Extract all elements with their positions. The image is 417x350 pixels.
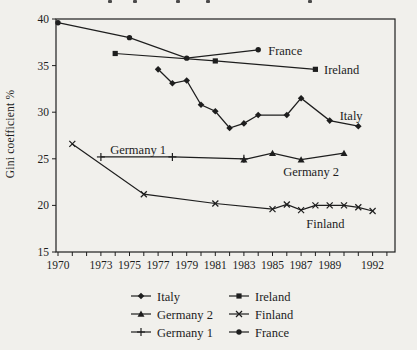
x-tick-label: 1987 — [290, 259, 313, 271]
series-germany-2: Germany 2 — [240, 150, 347, 179]
y-tick-label: 40 — [38, 13, 50, 25]
scanned-figure-page: 1970197319751977197919811983198519871989… — [0, 0, 417, 350]
legend-label: Italy — [157, 290, 181, 304]
legend-item-france: France — [229, 326, 289, 340]
y-tick-label: 15 — [38, 246, 50, 258]
series-line-france — [58, 23, 258, 58]
legend-label: Finland — [255, 308, 294, 322]
x-tick-label: 1983 — [232, 259, 255, 271]
legend-item-italy: Italy — [131, 290, 181, 304]
data-point-marker — [127, 35, 132, 40]
x-tick-label: 1977 — [147, 259, 170, 271]
data-point-marker — [341, 150, 348, 156]
legend-item-finland: Finland — [229, 308, 294, 322]
data-point-marker — [269, 150, 276, 156]
y-tick-label: 25 — [38, 153, 50, 165]
series-label-ireland: Ireland — [324, 63, 360, 77]
y-tick-label: 35 — [38, 60, 50, 72]
y-tick-label: 30 — [38, 106, 50, 118]
legend-item-germany-1: Germany 1 — [131, 326, 213, 340]
data-point-marker — [236, 329, 241, 334]
data-point-marker — [55, 20, 60, 25]
y-axis-title: Gini coefficient % — [4, 64, 16, 204]
data-point-marker — [236, 293, 241, 298]
data-point-marker — [313, 67, 318, 72]
data-point-marker — [213, 58, 218, 63]
x-tick-label: 1975 — [118, 259, 141, 271]
series-label-italy: Italy — [340, 109, 364, 123]
x-tick-label: 1979 — [175, 259, 198, 271]
data-point-marker — [198, 101, 205, 108]
data-point-marker — [256, 47, 261, 52]
legend-item-ireland: Ireland — [229, 290, 291, 304]
data-point-marker — [355, 123, 362, 130]
legend-label: Germany 1 — [157, 326, 213, 340]
data-point-marker — [138, 293, 145, 300]
legend-item-germany-2: Germany 2 — [131, 308, 213, 322]
x-tick-label: 1970 — [47, 259, 70, 271]
x-tick-label: 1973 — [89, 259, 112, 271]
data-point-marker — [113, 51, 118, 56]
data-point-marker — [255, 112, 262, 119]
x-tick-label: 1989 — [318, 259, 341, 271]
series-germany-1: Germany 1 — [97, 143, 248, 162]
series-label-france: France — [268, 44, 302, 58]
data-point-marker — [241, 120, 248, 127]
x-tick-label: 1981 — [204, 259, 227, 271]
series-label-germany-2: Germany 2 — [283, 165, 339, 179]
x-tick-label: 1992 — [361, 259, 384, 271]
legend-label: Germany 2 — [157, 308, 213, 322]
y-tick-label: 20 — [38, 199, 50, 211]
x-tick-label: 1985 — [261, 259, 284, 271]
series-label-finland: Finland — [306, 217, 345, 231]
legend-label: France — [255, 326, 289, 340]
series-ireland: Ireland — [113, 51, 361, 77]
legend-label: Ireland — [255, 290, 291, 304]
series-france: France — [55, 20, 302, 61]
series-label-germany-1: Germany 1 — [110, 143, 166, 157]
data-point-marker — [183, 77, 190, 84]
series-line-germany-2 — [244, 153, 344, 160]
gini-line-chart: 1970197319751977197919811983198519871989… — [0, 0, 417, 350]
